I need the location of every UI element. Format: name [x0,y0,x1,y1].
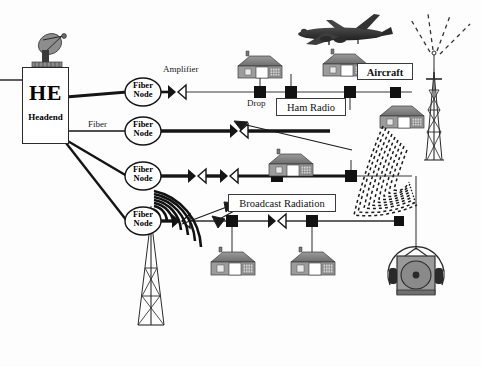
tap-icon [394,216,404,226]
headend-subtitle: Headend [23,112,68,122]
hfc-network-diagram: HE Headend Fiber Node Fiber Node Fiber N… [0,0,481,367]
ham-radio-callout[interactable]: Ham Radio [276,98,346,116]
diagram-canvas [0,0,481,367]
drop-label: Drop [247,99,266,108]
tap-icon [226,215,238,227]
satellite-dish-icon [32,30,66,67]
airplane-icon [298,14,393,45]
house-icon [291,247,335,275]
amplifier-icon [168,85,186,99]
ham-radio-tower-icon [410,14,470,160]
tap-icon [306,215,318,227]
fiber-node-2-line2: Node [125,129,161,138]
tap-icon [390,87,401,98]
fiber-node-4-line2: Node [125,219,161,228]
fiber-node-1-line2: Node [125,90,161,99]
house-icon [380,106,424,128]
tap-icon [254,86,266,98]
amplifier-label: Amplifier [163,65,199,74]
tap-icon [345,170,357,182]
amplifier-icon [268,214,286,228]
fiber-node-4-label[interactable]: Fiber Node [125,210,161,227]
fiber-feeder-lines [66,92,127,221]
fiber-label: Fiber [88,120,107,129]
headend-box[interactable]: HE Headend [22,67,69,144]
fiber-node-1-label[interactable]: Fiber Node [125,81,161,98]
aircraft-callout[interactable]: Aircraft [357,63,413,80]
house-icon [269,149,313,176]
amplifier-icon [220,169,238,183]
tap-icon [344,86,356,98]
house-icons [211,49,424,275]
house-icon [211,247,255,275]
fiber-node-3-line2: Node [125,174,161,183]
broadcast-radiation-wedge [354,126,417,216]
tap-icon [285,86,297,98]
fiber-node-3-label[interactable]: Fiber Node [125,165,161,182]
headend-title: HE [23,80,68,106]
fiber-node-2-label[interactable]: Fiber Node [125,120,161,137]
broadcast-radiation-callout[interactable]: Broadcast Radiation [228,194,336,212]
amplifier-icon [188,169,206,183]
house-icon [238,51,282,78]
